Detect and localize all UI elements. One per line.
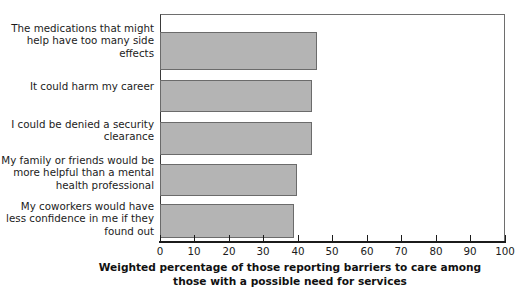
category-label-coworkers: My coworkers would have less confidence … [0, 200, 154, 237]
x-axis-title-line-2: those with a possible need for services [80, 275, 500, 289]
tick-label: 0 [157, 245, 164, 257]
tick-label: 10 [187, 245, 200, 257]
bar-family-friends [160, 164, 297, 196]
bars-layer [160, 14, 505, 242]
bar-medications [160, 32, 317, 70]
tick-label: 30 [256, 245, 269, 257]
tick-label: 80 [429, 245, 442, 257]
category-label-family-friends: My family or friends would be more helpf… [0, 154, 154, 191]
tick-label: 70 [394, 245, 407, 257]
tick-label: 100 [495, 245, 515, 257]
bar-chart: The medications that might help have too… [0, 0, 523, 296]
x-axis-title-line-1: Weighted percentage of those reporting b… [80, 261, 500, 275]
tick-label: 20 [222, 245, 235, 257]
bar-security-clearance [160, 122, 312, 155]
category-label-career: It could harm my career [0, 80, 154, 92]
category-axis-labels: The medications that might help have too… [0, 14, 158, 242]
tick-label: 90 [463, 245, 476, 257]
tick-label: 40 [291, 245, 304, 257]
bar-coworkers [160, 204, 294, 238]
tick-label: 60 [360, 245, 373, 257]
bar-career [160, 80, 312, 112]
category-label-medications: The medications that might help have too… [0, 22, 154, 59]
tick-label: 50 [325, 245, 338, 257]
x-axis-title: Weighted percentage of those reporting b… [80, 261, 500, 288]
category-label-security-clearance: I could be denied a security clearance [0, 118, 154, 143]
x-axis-line [159, 241, 506, 243]
